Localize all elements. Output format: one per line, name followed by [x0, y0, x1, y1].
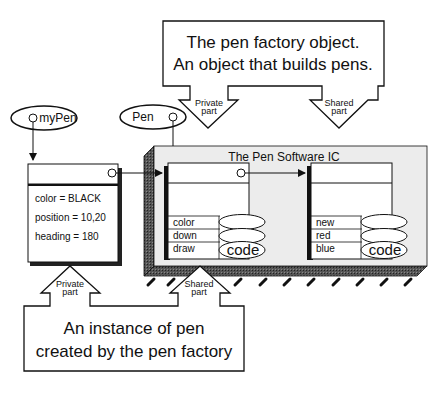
pen-class-port-icon	[237, 169, 245, 177]
instance-shared-arrow-line2: part	[191, 287, 207, 297]
chip-title: The Pen Software IC	[228, 150, 340, 164]
pen-method-draw: draw	[173, 243, 195, 254]
reference-mypen: myPen	[11, 106, 77, 160]
pen-port-icon	[169, 113, 177, 121]
meta-method-red: red	[316, 230, 330, 241]
instance-field-heading: heading = 180	[35, 231, 99, 242]
factory-shared-arrow-line2: part	[331, 106, 347, 116]
meta-method-new: new	[316, 217, 335, 228]
mypen-port-icon	[29, 114, 37, 122]
instance-field-color: color = BLACK	[35, 193, 101, 204]
meta-method-blue: blue	[316, 243, 335, 254]
instance-field-position: position = 10,20	[35, 212, 106, 223]
pen-instance-object: color = BLACK position = 10,20 heading =…	[28, 164, 122, 266]
factory-callout-line1: The pen factory object.	[187, 33, 360, 52]
instance-callout-line2: created by the pen factory	[36, 342, 233, 361]
factory-private-arrow-line2: part	[201, 106, 217, 116]
pen-factory-diagram: The pen factory object. An object that b…	[0, 0, 448, 394]
metaclass-object: new red blue code	[307, 163, 407, 260]
mypen-label: myPen	[39, 111, 76, 125]
pen-code-label: code	[227, 241, 260, 258]
meta-code-label: code	[369, 241, 402, 258]
instance-private-arrow-line2: part	[62, 287, 78, 297]
instance-callout-line1: An instance of pen	[64, 319, 205, 338]
pen-method-down: down	[173, 230, 197, 241]
factory-callout-line2: An object that builds pens.	[173, 55, 372, 74]
instance-port-icon	[108, 169, 116, 177]
pen-label: Pen	[132, 110, 153, 124]
pen-method-color: color	[173, 217, 195, 228]
